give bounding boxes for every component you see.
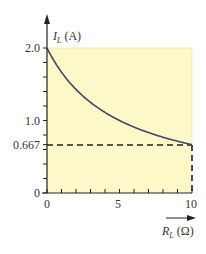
y-tick-label-0667: 0.667 [13, 138, 40, 152]
x-axis-label-unit: (Ω) [174, 224, 194, 238]
y-axis-arrow-icon [44, 14, 50, 24]
x-tick-label-10: 10 [185, 197, 197, 211]
chart: 2.0 1.0 0.667 0 0 5 10 IL (A) RL (Ω) [0, 0, 206, 254]
y-tick-label-1: 1.0 [25, 114, 40, 128]
x-axis-arrow-icon [187, 215, 196, 221]
x-axis-label: RL (Ω) [161, 224, 194, 240]
x-tick-label-0: 0 [44, 197, 50, 211]
y-tick-label-0: 0 [34, 186, 40, 200]
y-tick-label-2: 2.0 [25, 41, 40, 55]
y-axis-label: IL (A) [52, 29, 81, 45]
x-tick-label-5: 5 [115, 197, 121, 211]
y-axis-label-unit: (A) [61, 29, 81, 43]
